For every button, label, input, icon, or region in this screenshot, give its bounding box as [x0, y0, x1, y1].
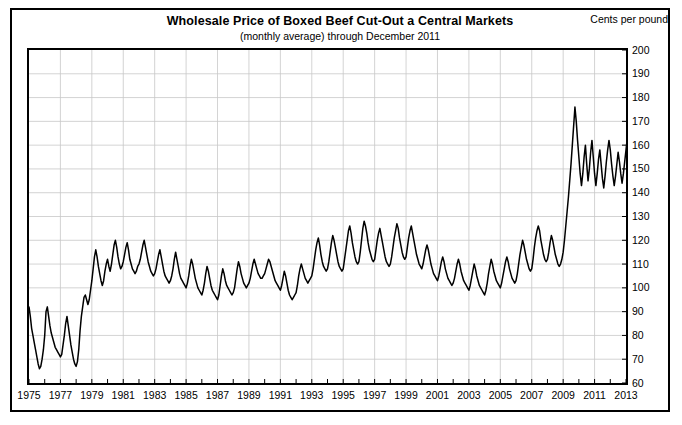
- plot-area: [27, 48, 628, 385]
- x-axis-tick-label: 2003: [457, 389, 480, 402]
- y-axis-tick-label: 70: [632, 354, 644, 365]
- y-axis-tick-label: 80: [632, 330, 644, 341]
- x-axis-tick-label: 2001: [426, 389, 449, 402]
- x-axis-tick-label: 1989: [237, 389, 260, 402]
- x-axis-tick-label: 1991: [269, 389, 292, 402]
- x-axis-tick-label: 2005: [489, 389, 512, 402]
- x-axis-tick-label: 2009: [551, 389, 574, 402]
- y-axis-tick-label: 150: [632, 163, 650, 174]
- y-axis-tick-label: 170: [632, 116, 650, 127]
- y-axis-tick-label: 60: [632, 378, 644, 389]
- chart-subtitle: (monthly average) through December 2011: [12, 29, 668, 43]
- y-axis-tick-label: 160: [632, 140, 650, 151]
- chart-title-block: Wholesale Price of Boxed Beef Cut-Out a …: [12, 11, 668, 45]
- horizontal-gridlines: [29, 74, 626, 359]
- y-axis-tick-label: 120: [632, 235, 650, 246]
- y-axis-tick-label: 140: [632, 187, 650, 198]
- y-axis-labels: 6070809010011012013014015016017018019020…: [632, 42, 672, 392]
- y-axis-tick-label: 110: [632, 259, 649, 270]
- y-axis-tick-marks: [622, 50, 626, 383]
- x-axis-tick-label: 1985: [174, 389, 197, 402]
- x-axis-tick-label: 1995: [332, 389, 355, 402]
- y-axis-tick-label: 180: [632, 92, 650, 103]
- x-axis-tick-label: 2011: [583, 389, 606, 402]
- x-axis-tick-label: 1999: [394, 389, 417, 402]
- y-axis-tick-label: 90: [632, 306, 644, 317]
- y-axis-tick-label: 190: [632, 68, 650, 79]
- chart-svg: [29, 50, 626, 383]
- x-axis-tick-label: 2013: [614, 389, 637, 402]
- x-axis-tick-label: 1981: [112, 389, 135, 402]
- x-axis-tick-label: 1983: [143, 389, 166, 402]
- x-axis-labels: 1975197719791981198319851987198919911993…: [0, 389, 682, 409]
- x-axis-tick-label: 1977: [49, 389, 72, 402]
- x-axis-tick-label: 1987: [206, 389, 229, 402]
- y-axis-tick-label: 130: [632, 211, 650, 222]
- page-title: Wholesale Price of Boxed Beef Cut-Out a …: [12, 13, 668, 29]
- chart-figure: Wholesale Price of Boxed Beef Cut-Out a …: [0, 0, 682, 425]
- y-axis-tick-label: 100: [632, 282, 650, 293]
- x-axis-tick-label: 1997: [363, 389, 386, 402]
- x-axis-tick-label: 2007: [520, 389, 543, 402]
- x-axis-tick-label: 1979: [80, 389, 103, 402]
- price-line-series: [29, 60, 626, 369]
- y-axis-tick-label: 200: [632, 45, 650, 56]
- x-axis-tick-label: 1993: [300, 389, 323, 402]
- x-axis-tick-label: 1975: [17, 389, 40, 402]
- y-axis-units-label: Cents per pound: [590, 13, 668, 25]
- x-axis-tick-marks: [29, 379, 626, 383]
- plot-inner: [29, 50, 626, 383]
